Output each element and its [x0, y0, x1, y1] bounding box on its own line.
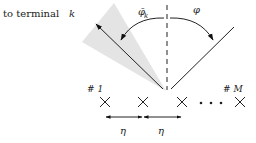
array-element-3 — [177, 97, 187, 107]
terminal-var: k — [69, 8, 75, 19]
terminal-label: to terminal — [3, 8, 59, 19]
spacing-label-2: η — [158, 125, 164, 136]
ellipsis-dots — [200, 102, 223, 105]
beam-wedge — [82, 3, 166, 91]
element-label-last: # M — [223, 84, 243, 94]
spacing-label-1: η — [120, 125, 126, 136]
array-geometry-diagram: to terminal k φ̄ k φ # 1 # M η η — [0, 0, 256, 143]
array-element-m — [235, 97, 245, 107]
angle-label-phi: φ — [193, 4, 200, 15]
angle-label-phibar-sub: k — [144, 12, 148, 20]
element-label-first: # 1 — [87, 84, 103, 94]
array-element-1 — [100, 97, 110, 107]
incident-direction-line — [171, 27, 234, 89]
array-element-2 — [138, 97, 148, 107]
angle-arc-phi — [170, 18, 213, 40]
